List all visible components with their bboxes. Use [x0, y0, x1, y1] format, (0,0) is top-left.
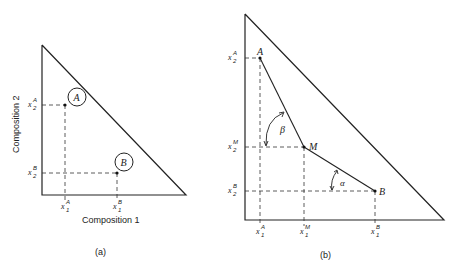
svg-text:1: 1	[118, 207, 121, 213]
svg-text:x: x	[60, 202, 65, 211]
svg-text:x: x	[370, 227, 375, 236]
point-m	[302, 145, 305, 148]
label-m: M	[308, 141, 318, 152]
point-b	[115, 171, 118, 174]
point-a	[63, 103, 66, 106]
triangle-b	[245, 14, 444, 220]
svg-text:A: A	[232, 50, 237, 56]
angle-beta: β	[264, 112, 285, 146]
svg-text:A: A	[260, 224, 265, 230]
point-b	[373, 189, 376, 192]
x-tick-a: x A 1	[255, 224, 265, 238]
svg-text:β: β	[279, 124, 285, 135]
svg-text:x: x	[255, 227, 260, 236]
x-axis-label: Composition 1	[82, 215, 140, 225]
svg-text:x: x	[27, 100, 32, 109]
svg-text:A: A	[32, 97, 37, 103]
svg-text:2: 2	[232, 58, 237, 64]
y-axis-label: Composition 2	[11, 95, 21, 153]
svg-text:1: 1	[305, 232, 308, 238]
figure: A B x A 2 x B 2 x A 1 x B 1 Composition …	[0, 0, 458, 271]
x-tick-b: x B 1	[370, 224, 380, 238]
y-tick-b: x B 2	[27, 165, 37, 179]
label-b: B	[121, 157, 127, 168]
svg-text:B: B	[233, 183, 237, 189]
x-tick-m: x M 1	[299, 224, 310, 238]
svg-text:M: M	[233, 139, 238, 145]
panel-a: A B x A 2 x B 2 x A 1 x B 1 Composition …	[11, 45, 186, 257]
svg-text:B: B	[376, 224, 380, 230]
label-a: A	[256, 46, 264, 57]
svg-text:B: B	[118, 199, 122, 205]
x-tick-b: x B 1	[112, 199, 122, 213]
caption-a: (a)	[95, 247, 106, 257]
label-b: B	[379, 186, 385, 197]
y-tick-a: x A 2	[27, 97, 37, 111]
caption-b: (b)	[320, 250, 331, 260]
svg-text:x: x	[227, 186, 232, 195]
svg-text:α: α	[340, 178, 345, 188]
svg-text:2: 2	[32, 173, 37, 179]
svg-text:2: 2	[32, 105, 37, 111]
svg-text:x: x	[112, 202, 117, 211]
label-a: A	[73, 92, 81, 103]
svg-text:B: B	[33, 165, 37, 171]
svg-text:A: A	[65, 199, 70, 205]
svg-text:2: 2	[232, 191, 237, 197]
svg-text:M: M	[305, 224, 310, 230]
svg-text:1: 1	[376, 232, 379, 238]
svg-text:x: x	[299, 227, 304, 236]
triangle-a	[42, 45, 186, 195]
y-tick-b: x B 2	[227, 183, 237, 197]
y-tick-a: x A 2	[227, 50, 237, 64]
svg-text:1: 1	[66, 207, 69, 213]
svg-text:x: x	[27, 168, 32, 177]
svg-text:x: x	[227, 142, 232, 151]
svg-text:x: x	[227, 53, 232, 62]
y-tick-m: x M 2	[227, 139, 238, 153]
panel-b: A M B β α x A 2 x M 2 x B 2	[227, 14, 444, 260]
svg-text:1: 1	[261, 232, 264, 238]
svg-text:2: 2	[232, 147, 237, 153]
x-tick-a: x A 1	[60, 199, 70, 213]
angle-alpha: α	[330, 170, 345, 190]
